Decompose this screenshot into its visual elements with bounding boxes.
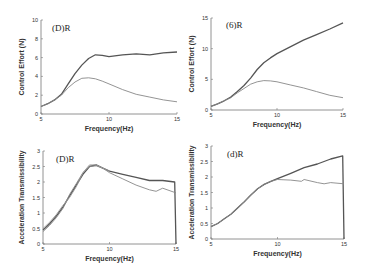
- x-tick-label: 5: [209, 112, 212, 118]
- y-tick-label: 0: [35, 111, 38, 117]
- x-tick-label: 10: [274, 241, 280, 247]
- series-line-lower: [211, 180, 344, 227]
- y-tick-label: 10: [32, 17, 38, 23]
- y-tick-label: 1: [205, 205, 208, 211]
- y-tick-label: 2: [37, 179, 40, 185]
- y-axis-title: Acceleration Transmissibility: [188, 145, 196, 239]
- y-tick-label: 15: [202, 15, 208, 21]
- y-tick-label: 2: [35, 92, 38, 98]
- chart-panel-c: 00.511.522.5351015(D)RFrequency(Hz)Accel…: [18, 148, 179, 263]
- series-line-lower: [43, 166, 176, 232]
- y-tick-label: 3: [205, 143, 208, 149]
- x-axis-title: Frequency(Hz): [253, 250, 302, 258]
- x-tick-label: 10: [274, 112, 280, 118]
- y-axis-title: Control Effort (N): [188, 35, 196, 92]
- panel-label: (d)R: [227, 149, 244, 159]
- y-tick-label: 1: [37, 210, 40, 216]
- x-tick-label: 15: [340, 112, 346, 118]
- chart-panel-b: 05101551015(6)RFrequency(Hz)Control Effo…: [188, 15, 346, 129]
- series-line-upper: [43, 165, 176, 244]
- series-line-third: [43, 165, 110, 229]
- chart-panel-a: 024681051015(D)RFrequency(Hz)Control Eff…: [18, 17, 180, 133]
- y-axis-title: Acceleration Transmissibility: [18, 150, 26, 244]
- y-tick-label: 2.5: [32, 164, 40, 170]
- x-tick-label: 10: [106, 246, 112, 252]
- y-tick-label: 0: [205, 236, 208, 242]
- y-tick-label: 0.5: [200, 221, 208, 227]
- series-line-lower: [211, 81, 343, 107]
- series-line-upper: [211, 156, 344, 239]
- y-tick-label: 2.5: [200, 159, 208, 165]
- y-tick-label: 6: [35, 55, 38, 61]
- x-tick-label: 15: [174, 116, 180, 122]
- x-tick-label: 15: [341, 241, 347, 247]
- series-line-lower: [41, 78, 177, 107]
- y-tick-label: 5: [205, 76, 208, 82]
- x-tick-label: 15: [173, 246, 179, 252]
- y-tick-label: 3: [37, 148, 40, 154]
- y-tick-label: 0: [37, 241, 40, 247]
- y-tick-label: 1.5: [32, 195, 40, 201]
- chart-panel-d: 00.511.522.5351015(d)RFrequency(Hz)Accel…: [188, 143, 347, 258]
- y-tick-label: 2: [205, 174, 208, 180]
- charts-canvas: 024681051015(D)RFrequency(Hz)Control Eff…: [0, 0, 367, 277]
- panel-label: (D)R: [52, 23, 71, 33]
- y-tick-label: 1.5: [200, 190, 208, 196]
- y-tick-label: 10: [202, 46, 208, 52]
- y-tick-label: 4: [35, 73, 38, 79]
- x-tick-label: 5: [39, 116, 42, 122]
- y-axis-title: Control Effort (N): [18, 38, 26, 95]
- y-tick-label: 8: [35, 36, 38, 42]
- x-tick-label: 5: [209, 241, 212, 247]
- x-tick-label: 10: [106, 116, 112, 122]
- panel-label: (D)R: [56, 154, 75, 164]
- panel-label: (6)R: [226, 20, 243, 30]
- x-axis-title: Frequency(Hz): [85, 125, 134, 133]
- x-axis-title: Frequency(Hz): [253, 121, 302, 129]
- x-tick-label: 5: [41, 246, 44, 252]
- y-tick-label: 0.5: [32, 226, 40, 232]
- x-axis-title: Frequency(Hz): [85, 255, 134, 263]
- y-tick-label: 0: [205, 107, 208, 113]
